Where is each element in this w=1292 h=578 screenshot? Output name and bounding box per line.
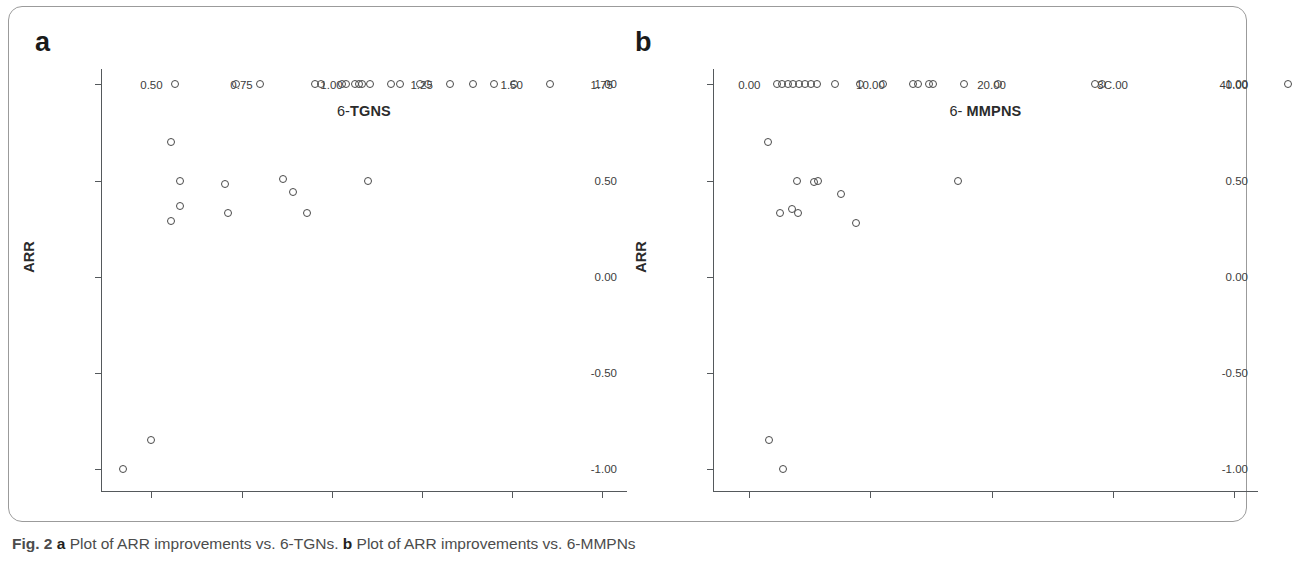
panel-a-data-point (366, 80, 374, 88)
panel-b-data-point (813, 80, 821, 88)
caption-panel-b-letter: b (343, 535, 352, 552)
panel-a-y-tick (95, 277, 101, 278)
panel-b-data-point (929, 80, 937, 88)
panel-a-data-point (289, 188, 297, 196)
panel-b-y-axis-line (713, 69, 714, 492)
panel-b-x-axis-line (713, 491, 1258, 492)
panel-b-plot-area: 6- MMPNS 1.000.500.00-0.50-1.000.0010.00… (713, 69, 1258, 492)
panel-a-data-point (396, 80, 404, 88)
panel-b-data-point (765, 436, 773, 444)
figure-frame: a ARR 6-TGNS 1.000.500.00-0.50-1.000.500… (8, 6, 1247, 522)
panel-a-data-point (171, 80, 179, 88)
panel-b-data-point (837, 190, 845, 198)
panel-b-y-tick (707, 277, 713, 278)
panel-a-data-point (469, 80, 477, 88)
panel-a-x-tick-label: 1.75 (591, 79, 613, 91)
panel-b-data-point (914, 80, 922, 88)
panel-a-data-point (176, 202, 184, 210)
panel-a-data-point (510, 80, 518, 88)
panel-a-letter: a (35, 29, 50, 56)
panel-a-x-tick (151, 492, 152, 498)
panel-b-data-point (856, 80, 864, 88)
panel-b-data-point (831, 80, 839, 88)
panel-b-y-tick (707, 84, 713, 85)
panel-b-data-point (879, 80, 887, 88)
panel-a-x-axis-title-tail: TGNS (350, 103, 391, 119)
caption-panel-b-text: Plot of ARR improvements vs. 6-MMPNs (352, 535, 635, 552)
panel-a-data-point (119, 465, 127, 473)
panel-a-data-point (490, 80, 498, 88)
panel-b-x-axis-title-tail: MMPNS (966, 103, 1021, 119)
panel-a-data-point (176, 177, 184, 185)
panel-b-x-tick-label: 20.00 (977, 79, 1006, 91)
panel-a-data-point (256, 80, 264, 88)
panel-b-data-point (776, 209, 784, 217)
panel-b-x-tick (1113, 492, 1114, 498)
panel-b-y-tick (707, 469, 713, 470)
panel-a-x-tick (602, 492, 603, 498)
panel-a-data-point (303, 209, 311, 217)
panel-a-y-tick-label: -1.00 (591, 463, 617, 475)
panel-a-x-axis-title-prefix: 6- (337, 103, 350, 119)
panel-b-data-point (764, 138, 772, 146)
panel-b-x-axis-title: 6- MMPNS (713, 103, 1258, 119)
panel-b-x-tick-label: 40.00 (1219, 79, 1248, 91)
panel-a-data-point (221, 180, 229, 188)
panel-a-x-tick (422, 492, 423, 498)
panel-b-data-point (954, 177, 962, 185)
panel-a-data-point (364, 177, 372, 185)
panel-a-data-point (167, 217, 175, 225)
panel-b-data-point (852, 219, 860, 227)
panel-a-y-axis-line (101, 69, 102, 492)
panel-a-data-point (342, 80, 350, 88)
panel-b-y-axis-title: ARR (633, 241, 649, 272)
panel-b-x-tick (870, 492, 871, 498)
panel-b-data-point (793, 177, 801, 185)
panel-a-y-tick-label: -0.50 (591, 367, 617, 379)
panel-a-y-axis-title: ARR (21, 241, 37, 272)
panel-b-letter: b (635, 29, 652, 56)
panel-b-data-point (794, 209, 802, 217)
panel-b-data-point (779, 465, 787, 473)
caption-figure-number: Fig. 2 (12, 535, 52, 552)
panel-a-data-point (387, 80, 395, 88)
panel-a-y-tick (95, 373, 101, 374)
panel-a-data-point (446, 80, 454, 88)
panel-b-x-tick-label: 0.00 (738, 79, 760, 91)
figure-caption: Fig. 2 a Plot of ARR improvements vs. 6-… (12, 534, 1212, 554)
panel-a-data-point (546, 80, 554, 88)
panel-a-x-tick (332, 492, 333, 498)
panel-a-x-axis-line (101, 491, 627, 492)
panel-a-data-point (279, 175, 287, 183)
panel-b-y-tick-label: 0.50 (1226, 175, 1248, 187)
panel-a-data-point (167, 138, 175, 146)
panel-a-data-point (358, 80, 366, 88)
panel-a-y-tick (95, 469, 101, 470)
panel-b-x-axis-title-prefix: 6- (950, 103, 967, 119)
panel-b-data-point (814, 177, 822, 185)
panel-b-data-point (960, 80, 968, 88)
panel-b-x-tick (992, 492, 993, 498)
panel-b-y-tick (707, 181, 713, 182)
panel-a-y-tick (95, 181, 101, 182)
panel-b: b ARR 6- MMPNS 1.000.500.00-0.50-1.000.0… (633, 17, 1253, 517)
panel-b-y-tick-label: -1.00 (1222, 463, 1248, 475)
panel-a: a ARR 6-TGNS 1.000.500.00-0.50-1.000.500… (17, 17, 637, 517)
panel-a-x-tick (512, 492, 513, 498)
panel-b-y-tick (707, 373, 713, 374)
panel-a-data-point (224, 209, 232, 217)
panel-b-x-tick (749, 492, 750, 498)
panel-b-y-tick-label: 0.00 (1226, 271, 1248, 283)
panel-a-data-point (147, 436, 155, 444)
caption-panel-a-text: Plot of ARR improvements vs. 6-TGNs. (65, 535, 342, 552)
panel-a-plot-area: 6-TGNS 1.000.500.00-0.50-1.000.500.751.0… (101, 69, 627, 492)
panel-b-data-point (994, 80, 1002, 88)
panel-b-data-point (1284, 80, 1292, 88)
panel-b-y-tick-label: -0.50 (1222, 367, 1248, 379)
panel-a-x-tick-label: 0.50 (140, 79, 162, 91)
panel-a-x-tick (242, 492, 243, 498)
panel-a-y-tick-label: 0.50 (595, 175, 617, 187)
panel-a-x-axis-title: 6-TGNS (101, 103, 627, 119)
panel-b-x-tick (1234, 492, 1235, 498)
